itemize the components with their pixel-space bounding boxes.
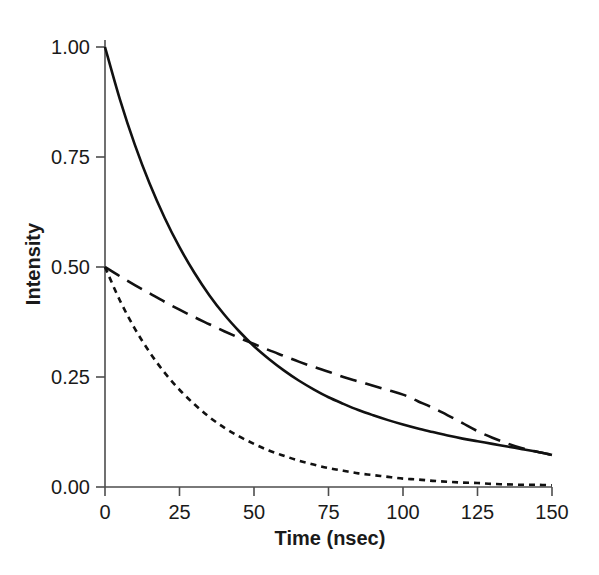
series-line-fast-component (105, 267, 552, 485)
y-axis-ticks (96, 47, 105, 487)
y-tick-label: 0.00 (51, 476, 90, 498)
y-axis-tick-labels: 0.000.250.500.751.00 (51, 36, 90, 498)
y-tick-label: 0.50 (51, 256, 90, 278)
x-tick-label: 125 (461, 501, 494, 523)
intensity-decay-plot: 0.000.250.500.751.00 0255075100125150 Ti… (0, 0, 599, 575)
y-tick-label: 1.00 (51, 36, 90, 58)
series-line-slow-component (105, 267, 552, 455)
x-tick-label: 150 (535, 501, 568, 523)
y-axis-title: Intensity (22, 222, 44, 305)
series-group (105, 47, 552, 485)
x-tick-label: 75 (317, 501, 339, 523)
y-tick-label: 0.25 (51, 366, 90, 388)
x-axis-ticks (105, 487, 552, 496)
x-tick-label: 50 (243, 501, 265, 523)
chart-figure: 0.000.250.500.751.00 0255075100125150 Ti… (0, 0, 599, 575)
x-tick-label: 0 (99, 501, 110, 523)
x-axis-title: Time (nsec) (275, 527, 386, 549)
series-line-total-decay (105, 47, 552, 455)
x-tick-label: 25 (168, 501, 190, 523)
x-tick-label: 100 (386, 501, 419, 523)
y-tick-label: 0.75 (51, 146, 90, 168)
x-axis-tick-labels: 0255075100125150 (99, 501, 568, 523)
